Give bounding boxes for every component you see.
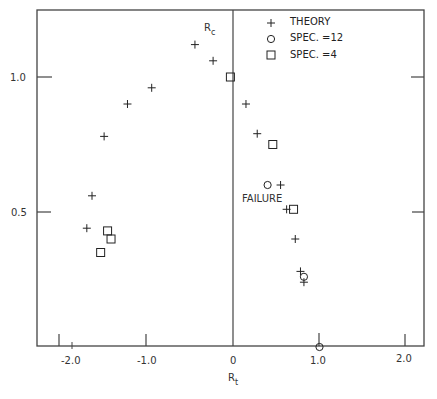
failure-annotation: FAILURE bbox=[242, 193, 282, 204]
y-axis-label: Rc bbox=[204, 22, 215, 37]
spec12-point bbox=[264, 181, 271, 188]
x-tick-label: 0 bbox=[230, 355, 236, 366]
x-tick-label: -2.0 bbox=[61, 355, 81, 366]
circle-marker-icon bbox=[267, 35, 274, 42]
spec4-point bbox=[290, 205, 298, 213]
legend: THEORY SPEC. =12 SPEC. =4 bbox=[267, 16, 343, 60]
y-tick-label: 1.0 bbox=[10, 72, 26, 83]
legend-theory: THEORY bbox=[289, 16, 331, 27]
theory-point bbox=[123, 100, 131, 108]
theory-point bbox=[277, 181, 285, 189]
x-tick-label: -1.0 bbox=[137, 355, 157, 366]
theory-point bbox=[242, 100, 250, 108]
theory-point bbox=[100, 132, 108, 140]
theory-point bbox=[148, 84, 156, 92]
plot-frame bbox=[37, 10, 424, 346]
spec4-point bbox=[97, 249, 105, 257]
theory-point bbox=[253, 130, 261, 138]
x-tick-label: 2.0 bbox=[396, 353, 412, 364]
spec4-point bbox=[104, 227, 112, 235]
data-points bbox=[83, 41, 323, 351]
theory-point bbox=[191, 41, 199, 49]
plus-marker-icon bbox=[267, 19, 275, 27]
spec4-point bbox=[269, 141, 277, 149]
legend-spec4: SPEC. =4 bbox=[290, 49, 337, 60]
x-tick-label: 1.0 bbox=[310, 355, 326, 366]
theory-point bbox=[83, 224, 91, 232]
y-tick-label: 0.5 bbox=[11, 207, 27, 218]
scatter-chart: 1.0 0.5 -2.0 -1.0 0 1.0 2.0 Rt Rc FAILUR… bbox=[0, 0, 437, 399]
spec4-point bbox=[107, 235, 115, 243]
theory-point bbox=[291, 235, 299, 243]
legend-spec12: SPEC. =12 bbox=[290, 32, 343, 43]
theory-point bbox=[88, 192, 96, 200]
x-axis-label: Rt bbox=[228, 372, 238, 387]
theory-point bbox=[209, 57, 217, 65]
theory-point bbox=[296, 267, 304, 275]
square-marker-icon bbox=[267, 51, 275, 59]
